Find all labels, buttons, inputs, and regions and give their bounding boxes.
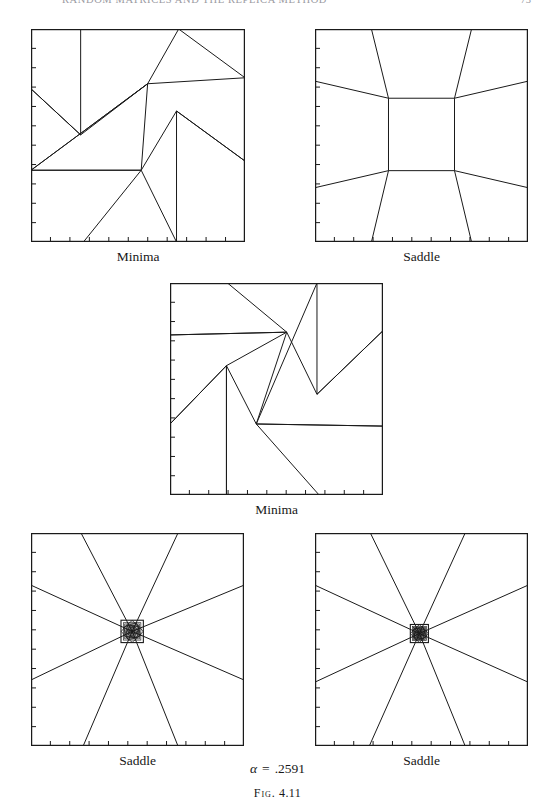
panel-caption-top-left: Minima [31,249,245,265]
alpha-equals: = [262,761,270,776]
running-title: RANDOM MATRICES AND THE REPLICA METHOD [62,0,327,5]
figure-number: 4.11 [279,786,301,800]
figure-label: Fig. [254,786,276,800]
figure-panel-bottom-left: Saddle [31,533,244,746]
panel-plot-bottom-right [315,533,528,746]
figure-panel-bottom-right: Saddle [315,533,528,746]
alpha-symbol: α [250,761,257,776]
figure-panel-top-left: Minima [31,29,245,242]
figure-panel-top-right: Saddle [315,29,528,242]
panel-caption-top-right: Saddle [315,249,528,265]
panel-caption-middle: Minima [170,502,383,518]
alpha-caption: α=.2591 [0,761,555,777]
panel-plot-top-right [315,29,528,242]
panel-plot-middle [170,283,383,495]
figure-panel-middle: Minima [170,283,383,495]
figure-caption: Fig. 4.11 [0,786,555,801]
page-folio: 73 [521,0,532,5]
alpha-value: .2591 [275,761,305,776]
panel-plot-bottom-left [31,533,244,746]
page-header: RANDOM MATRICES AND THE REPLICA METHOD 7… [0,0,555,9]
panel-plot-top-left [31,29,245,242]
